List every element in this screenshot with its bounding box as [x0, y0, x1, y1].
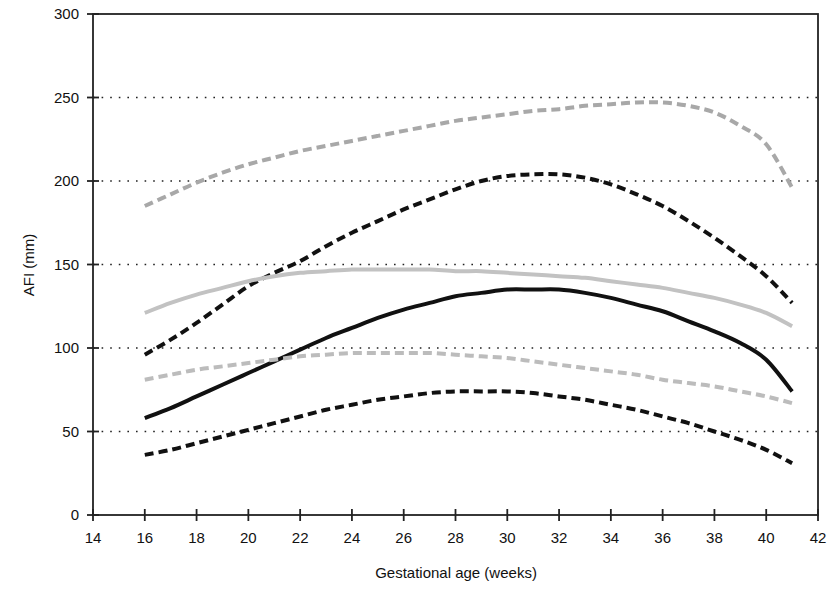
x-tick-label: 36: [654, 529, 671, 546]
x-tick-label: 22: [292, 529, 309, 546]
y-tick-label: 200: [54, 172, 79, 189]
x-tick-label: 38: [706, 529, 723, 546]
x-tick-label: 32: [551, 529, 568, 546]
y-tick-label: 100: [54, 339, 79, 356]
chart-canvas: 141618202224262830323436384042 050100150…: [0, 0, 838, 597]
y-tick-label: 0: [71, 506, 79, 523]
y-tick-label: 300: [54, 5, 79, 22]
x-axis-tick-labels: 141618202224262830323436384042: [85, 529, 827, 546]
y-axis-title: AFI (mm): [20, 234, 37, 296]
x-axis-title: Gestational age (weeks): [375, 564, 537, 581]
x-tick-label: 16: [136, 529, 153, 546]
x-tick-label: 26: [395, 529, 412, 546]
y-tick-label: 50: [62, 423, 79, 440]
y-tick-label: 150: [54, 256, 79, 273]
x-tick-label: 30: [499, 529, 516, 546]
x-tick-label: 42: [810, 529, 827, 546]
afi-growth-chart-figure: 141618202224262830323436384042 050100150…: [0, 0, 838, 597]
x-tick-label: 14: [85, 529, 102, 546]
x-tick-label: 34: [603, 529, 620, 546]
x-tick-label: 18: [188, 529, 205, 546]
x-tick-label: 20: [240, 529, 257, 546]
x-tick-label: 24: [344, 529, 361, 546]
x-tick-label: 40: [758, 529, 775, 546]
x-tick-label: 28: [447, 529, 464, 546]
y-tick-label: 250: [54, 89, 79, 106]
